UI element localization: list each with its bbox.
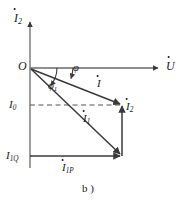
- angle-label-phi1: φ1: [48, 81, 57, 92]
- axis-value-label-i0: I0: [9, 99, 16, 112]
- phasor-dot-icon: [14, 8, 16, 10]
- figure-caption: b ): [82, 182, 94, 194]
- figure-container: I2 U O φ φ1 I I1 I2 I0 I1Q I1P b ): [0, 0, 193, 203]
- phasor-dot-icon: [168, 56, 170, 58]
- phasor-dot-icon: [96, 75, 98, 77]
- axis-label-i2: I2: [14, 12, 22, 26]
- vector-label-i2: I2: [126, 101, 133, 114]
- vector-i1: [31, 69, 120, 154]
- phasor-dot-icon: [82, 110, 84, 112]
- angle-label-phi: φ: [73, 63, 79, 74]
- vector-label-i1p: I1P: [62, 162, 74, 175]
- axis-label-u: U: [166, 60, 175, 72]
- vector-label-i1: I1: [83, 113, 90, 126]
- phasor-dot-icon: [61, 159, 63, 161]
- origin-label: O: [18, 60, 27, 72]
- phasor-diagram-svg: [0, 0, 193, 203]
- phasor-dot-icon: [125, 98, 127, 100]
- vector-i-total: [31, 69, 120, 104]
- vector-label-i-total: I: [97, 78, 101, 89]
- axis-value-label-i1q: I1Q: [6, 150, 19, 163]
